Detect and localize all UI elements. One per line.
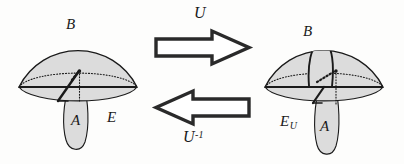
right-base-front-rim	[265, 87, 383, 101]
backward-arrow-label-base: U	[183, 128, 195, 145]
right-space-label-E-sub-U: EU	[280, 114, 297, 131]
left-teardrop-label-A: A	[71, 113, 80, 128]
left-vertex-point	[78, 69, 81, 72]
left-diagram-group	[19, 51, 137, 150]
figure-container: B A E U U-1 B A EU	[0, 0, 404, 164]
right-space-label-base: E	[280, 113, 289, 129]
right-vertex-point	[334, 69, 337, 72]
left-space-label-E: E	[107, 110, 116, 125]
left-base-front-rim	[19, 87, 137, 101]
forward-arrow-label-U: U	[194, 5, 206, 21]
left-dome-label-B: B	[66, 17, 75, 32]
backward-arrow-U-inverse	[156, 91, 249, 124]
right-space-label-subscript: U	[289, 120, 297, 131]
right-dome-label-B: B	[303, 24, 312, 39]
forward-arrow-U	[156, 31, 249, 64]
left-dome-B	[19, 51, 137, 87]
right-diagram-group	[265, 42, 383, 154]
backward-arrow-label-exponent: -1	[195, 129, 204, 140]
backward-arrow-label-U-inverse: U-1	[183, 129, 203, 145]
right-teardrop-label-A: A	[320, 119, 329, 134]
